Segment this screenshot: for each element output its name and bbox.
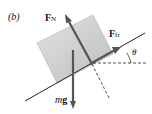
angle-arc [127, 53, 131, 63]
friction-force-subscript: fr [115, 31, 120, 39]
normal-force-label: FN [45, 13, 56, 23]
friction-force-label: Ffr [109, 29, 120, 39]
panel-label: (b) [8, 12, 20, 22]
gravity-force-label: mg [55, 95, 67, 105]
normal-arrowhead-icon [65, 14, 72, 23]
gravity-arrowhead-icon [70, 101, 76, 109]
free-body-diagram [0, 0, 152, 114]
normal-force-subscript: N [51, 15, 56, 23]
gravity-symbol: g [62, 94, 67, 105]
angle-label: θ [132, 48, 136, 57]
normal-extension-dashed [92, 64, 109, 98]
